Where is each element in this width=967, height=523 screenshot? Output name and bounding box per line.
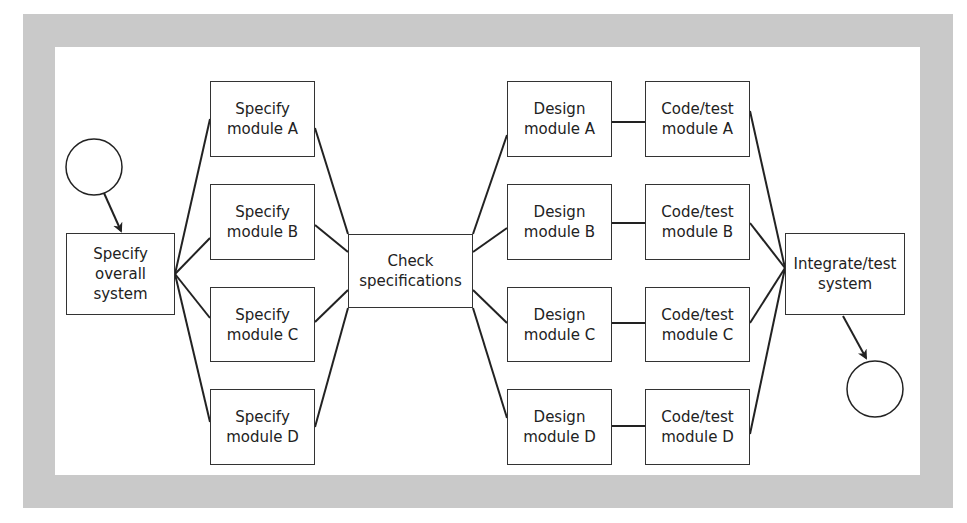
node-specify-module-c: Specify module C (210, 287, 315, 362)
node-code-test-module-c: Code/test module C (645, 287, 750, 362)
node-specify-module-a: Specify module A (210, 81, 315, 157)
node-code-test-module-d: Code/test module D (645, 389, 750, 465)
node-code-test-module-a: Code/test module A (645, 81, 750, 157)
node-design-module-d: Design module D (507, 389, 612, 465)
node-integrate-test-system: Integrate/test system (785, 233, 905, 315)
node-specify-module-b: Specify module B (210, 184, 315, 260)
node-design-module-a: Design module A (507, 81, 612, 157)
node-design-module-c: Design module C (507, 287, 612, 362)
node-check-specifications: Check specifications (348, 234, 473, 308)
node-specify-module-d: Specify module D (210, 389, 315, 465)
node-code-test-module-b: Code/test module B (645, 184, 750, 260)
node-design-module-b: Design module B (507, 184, 612, 260)
start-circle (66, 139, 122, 195)
end-circle (847, 361, 903, 417)
node-specify-overall-system: Specify overall system (66, 233, 175, 315)
